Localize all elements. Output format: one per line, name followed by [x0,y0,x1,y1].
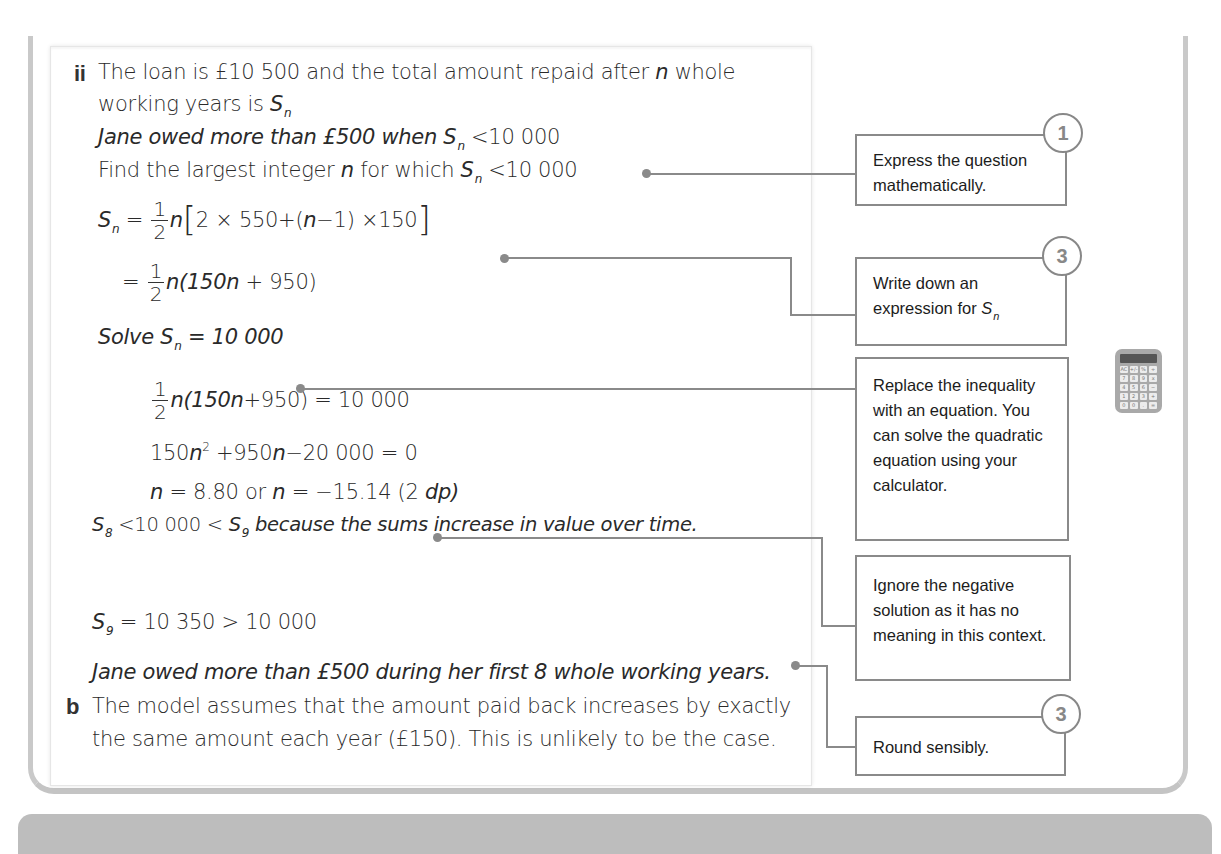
calculator-key: 1 [1120,393,1128,400]
solution-line-12-s9: S9 = 10 350 > 10 000 [92,610,317,638]
calculator-key: − [1149,384,1157,391]
solution-line-4: Find the largest integer n for which Sn … [98,158,577,186]
connector-line-2c [790,314,856,316]
calculator-key: + [1149,393,1157,400]
part-label-b: b [66,694,79,720]
calculator-key: +/- [1130,366,1138,373]
calculator-key: 2 [1130,393,1138,400]
calculator-key: 9 [1140,375,1148,382]
step-circle-3-a: 3 [1042,236,1082,276]
step-circle-1: 1 [1043,113,1083,153]
calculator-key: 5 [1130,384,1138,391]
solution-line-5-sn-formula: Sn = 12n[2 × 550+(n−1) ×150] [98,198,430,243]
connector-line-2b [790,257,792,315]
solution-line-7-solve: Solve Sn = 10 000 [98,325,283,353]
solution-line-14-model: The model assumes that the amount paid b… [92,694,791,718]
calculator-screen [1120,354,1157,363]
connector-line-1 [648,173,856,175]
callout-write-expression: Write down an expression for Sn [855,257,1067,346]
connector-line-4b [821,537,823,627]
solution-line-1: The loan is £10 500 and the total amount… [98,60,735,84]
callout-replace-inequality: Replace the inequality with an equation.… [855,357,1069,541]
part-label-ii: ii [74,61,86,87]
calculator-key: % [1140,366,1148,373]
calculator-key: 0 [1130,402,1138,409]
connector-line-4c [821,625,856,627]
step-circle-3-b: 3 [1041,694,1081,734]
calculator-key: 3 [1140,393,1148,400]
connector-line-5a [797,665,827,667]
solution-line-10-roots: n = 8.80 or n = −15.14 (2 dp) [150,480,459,504]
calculator-key: 7 [1120,375,1128,382]
calculator-icon: AC+/-%÷789x456−123+00.= [1115,349,1162,413]
connector-line-5c [826,746,856,748]
calculator-key: 0 [1120,402,1128,409]
calculator-key: x [1149,375,1157,382]
connector-line-2a [506,257,791,259]
connector-line-5b [826,665,828,747]
calculator-key: 4 [1120,384,1128,391]
callout-ignore-negative: Ignore the negative solution as it has n… [855,555,1071,681]
calculator-keys: AC+/-%÷789x456−123+00.= [1120,366,1157,409]
callout-round-sensibly: Round sensibly. [855,716,1066,776]
calculator-key: AC [1120,366,1128,373]
solution-line-3: Jane owed more than £500 when Sn <10 000 [98,125,560,153]
solution-line-11-comparison: S8 <10 000 < S9 because the sums increas… [92,513,697,540]
calculator-key: = [1149,402,1157,409]
calculator-key: . [1140,402,1148,409]
bottom-section-bar [18,814,1212,854]
solution-line-15-model: the same amount each year (£150). This i… [92,727,776,751]
solution-line-13-conclusion: Jane owed more than £500 during her firs… [92,660,771,684]
solution-line-9-quadratic: 150n2 +950n−20 000 = 0 [150,440,418,465]
calculator-key: 8 [1130,375,1138,382]
connector-line-3 [302,388,856,390]
connector-line-4a [439,537,822,539]
solution-line-8-equation: 12n(150n+950) = 10 000 [150,378,410,423]
solution-line-6-simplified: = 12n(150n + 950) [122,260,316,305]
calculator-key: 6 [1140,384,1148,391]
callout-express-question: Express the question mathematically. [855,134,1067,206]
solution-line-2: working years is Sn [98,92,291,120]
calculator-key: ÷ [1149,366,1157,373]
